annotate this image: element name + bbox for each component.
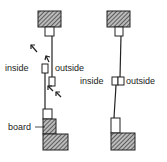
right-figure: inside outside — [80, 11, 155, 150]
top-spacer — [45, 27, 54, 36]
upper-string — [120, 36, 121, 77]
bottom-spacer — [111, 118, 120, 133]
bottom-spacer — [43, 109, 52, 119]
outside-element — [49, 77, 55, 86]
label-board: board — [8, 122, 31, 132]
inside-element — [42, 64, 48, 73]
label-outside-left: outside — [55, 63, 84, 73]
label-inside-right: inside — [80, 76, 104, 86]
top-block-hatched — [107, 11, 130, 27]
arrow-icon — [48, 86, 53, 91]
label-outside-right: outside — [126, 76, 155, 86]
board-block-small — [43, 119, 56, 134]
lower-string — [114, 85, 116, 118]
top-spacer — [115, 27, 123, 36]
inside-element — [112, 77, 118, 85]
bottom-block-hatched — [111, 133, 135, 150]
board-block-large — [43, 134, 68, 150]
top-block-hatched — [38, 11, 61, 27]
label-inside-left: inside — [5, 63, 29, 73]
diagram-canvas: inside outside board inside outside — [0, 0, 167, 162]
arrow-icon — [45, 56, 50, 62]
outside-element — [118, 77, 124, 85]
arrow-icon — [56, 92, 61, 97]
arrow-icon — [31, 45, 37, 52]
left-figure: inside outside board — [5, 11, 84, 150]
